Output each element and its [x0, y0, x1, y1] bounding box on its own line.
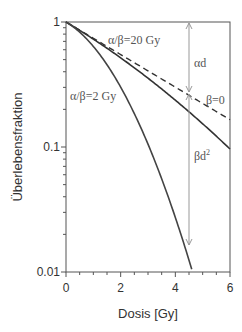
beta-d2-arrow [186, 94, 192, 245]
y-tick-1: 1 [53, 15, 60, 29]
label-beta-d2: βd2 [194, 148, 210, 163]
label-alpha-beta-20: α/β=20 Gy [108, 33, 160, 47]
label-beta-0: β=0 [206, 93, 225, 107]
y-tick-0.01: 0.01 [37, 265, 61, 279]
x-tick-2: 2 [117, 281, 124, 295]
y-tick-0.1: 0.1 [43, 140, 60, 154]
label-alpha-beta-2: α/β=2 Gy [70, 89, 116, 103]
alpha-d-arrow [186, 23, 192, 92]
y-axis-ticks [61, 22, 66, 272]
survival-curve-chart: 1 0.1 0.01 0 2 4 6 Dosis [Gy] Überlebens… [0, 0, 242, 332]
x-tick-4: 4 [172, 281, 179, 295]
x-tick-0: 0 [63, 281, 70, 295]
label-alpha-d: αd [194, 56, 206, 70]
x-tick-6: 6 [227, 281, 234, 295]
x-axis-ticks [66, 272, 230, 277]
x-axis-title: Dosis [Gy] [118, 306, 178, 321]
y-axis-title: Überlebensfraktion [10, 92, 25, 201]
